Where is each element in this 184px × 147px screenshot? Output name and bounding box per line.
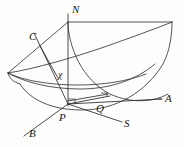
label-N: N [72, 4, 79, 15]
rim-left-edge [8, 22, 68, 73]
axes-group [24, 14, 162, 136]
label-C: C [29, 31, 36, 42]
chord-C-to-rim [40, 46, 58, 78]
label-B: B [29, 128, 36, 139]
label-chi: χ [58, 70, 62, 80]
geometric-figure: N C χ A Q P S B [0, 0, 184, 147]
label-S: S [124, 118, 130, 129]
diagram-canvas [0, 0, 184, 147]
label-Q: Q [96, 103, 104, 114]
label-P: P [59, 112, 66, 123]
axis-PC [34, 33, 68, 104]
axis-PS [68, 104, 122, 122]
surface-left-cut-edge [8, 73, 20, 84]
rim-front-ellipse [8, 73, 146, 85]
label-A: A [165, 93, 172, 104]
